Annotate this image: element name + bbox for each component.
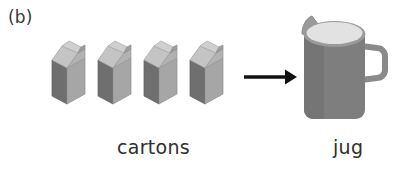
figure-panel: (b) <box>0 0 420 177</box>
panel-label: (b) <box>8 7 33 27</box>
milk-carton-icon <box>140 36 184 112</box>
milk-carton-icon <box>94 36 138 112</box>
milk-carton-icon <box>186 36 230 112</box>
caption-jug: jug <box>333 136 363 158</box>
caption-cartons: cartons <box>117 136 190 158</box>
milk-carton-icon <box>48 36 92 112</box>
arrow-right-icon <box>243 64 298 90</box>
jug-icon <box>300 14 392 130</box>
cartons-group <box>48 36 230 112</box>
